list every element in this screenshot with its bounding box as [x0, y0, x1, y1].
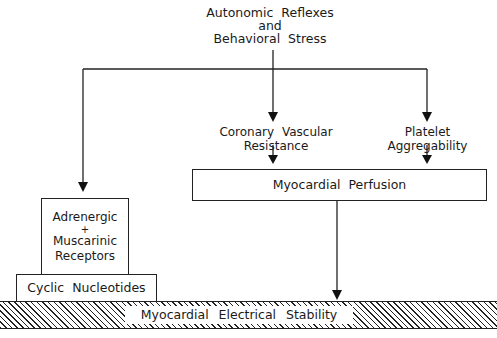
platelet-aggregability-node: Platelet Aggregability: [380, 125, 475, 153]
cyclic-nucleotides-box: Cyclic Nucleotides: [16, 274, 157, 302]
receptors-line-1: Adrenergic: [53, 210, 118, 225]
arrowhead-icon: [422, 155, 432, 164]
coronary-line-1: Coronary Vascular: [196, 125, 356, 139]
stability-label: Myocardial Electrical Stability: [125, 306, 353, 324]
receptors-box: Adrenergic + Muscarinic Receptors: [41, 198, 129, 275]
arrowhead-icon: [268, 112, 278, 122]
arrowhead-icon: [268, 155, 278, 164]
source-line-3: Behavioral Stress: [150, 32, 390, 45]
myocardial-perfusion-box: Myocardial Perfusion: [192, 169, 487, 201]
coronary-line-2: Resistance: [196, 139, 356, 153]
perfusion-label: Myocardial Perfusion: [273, 177, 407, 193]
coronary-vascular-resistance-node: Coronary Vascular Resistance: [196, 125, 356, 153]
platelet-line-1: Platelet: [380, 125, 475, 139]
arrowhead-icon: [78, 182, 88, 192]
receptors-line-3: Muscarinic: [53, 234, 117, 249]
nucleotides-label: Cyclic Nucleotides: [27, 280, 145, 296]
arrowhead-icon: [422, 112, 432, 122]
source-node: Autonomic Reflexes and Behavioral Stress: [150, 6, 390, 45]
receptors-line-2: +: [81, 225, 89, 234]
arrowhead-icon: [332, 290, 342, 300]
platelet-line-2: Aggregability: [380, 139, 475, 153]
receptors-line-4: Receptors: [55, 249, 115, 264]
